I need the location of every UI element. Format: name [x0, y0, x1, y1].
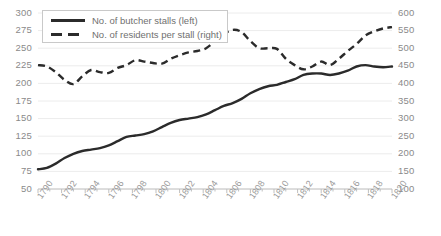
y-axis-right-tick-400: 400	[398, 77, 414, 88]
legend-solid-line-icon	[51, 15, 85, 25]
y-axis-left-tick-125: 125	[0, 130, 32, 141]
y-axis-right-tick-550: 550	[398, 24, 414, 35]
y-axis-left-tick-75: 75	[0, 165, 32, 176]
y-axis-left-tick-50: 50	[0, 183, 32, 194]
legend-item-butcher-stalls: No. of butcher stalls (left)	[51, 13, 198, 27]
y-axis-right-tick-600: 600	[398, 7, 414, 18]
y-axis-right-tick-200: 200	[398, 147, 414, 158]
y-axis-left-tick-225: 225	[0, 59, 32, 70]
y-axis-right-tick-350: 350	[398, 95, 414, 106]
y-axis-left-tick-100: 100	[0, 147, 32, 158]
y-axis-left-tick-150: 150	[0, 112, 32, 123]
legend-label-butcher-stalls: No. of butcher stalls (left)	[92, 15, 198, 26]
y-axis-left-tick-175: 175	[0, 95, 32, 106]
y-axis-left-tick-250: 250	[0, 42, 32, 53]
legend-label-residents-per-stall: No. of residents per stall (right)	[92, 29, 222, 40]
y-axis-right-tick-150: 150	[398, 165, 414, 176]
y-axis-right-tick-450: 450	[398, 59, 414, 70]
y-axis-right-tick-500: 500	[398, 42, 414, 53]
legend-dashed-line-icon	[51, 29, 85, 39]
y-axis-left-tick-200: 200	[0, 77, 32, 88]
chart-container: 5075100125150175200225250275300 10015020…	[0, 0, 441, 236]
y-axis-left-tick-275: 275	[0, 24, 32, 35]
y-axis-right-tick-300: 300	[398, 112, 414, 123]
y-axis-left-tick-300: 300	[0, 7, 32, 18]
legend-item-residents-per-stall: No. of residents per stall (right)	[51, 27, 222, 41]
y-axis-right-tick-250: 250	[398, 130, 414, 141]
chart-legend: No. of butcher stalls (left) No. of resi…	[42, 10, 228, 43]
